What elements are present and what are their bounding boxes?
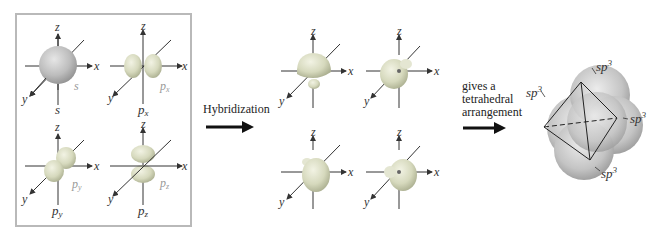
x-axis-label: x bbox=[181, 159, 188, 173]
sp3-orbital-3: z x y bbox=[278, 125, 354, 209]
y-axis-label: y bbox=[21, 92, 28, 106]
z-axis-label: z bbox=[396, 24, 402, 38]
py-orbital-diagram: z x y py py bbox=[21, 120, 100, 219]
y-axis-label: y bbox=[107, 192, 114, 206]
y-axis-label: y bbox=[278, 195, 285, 209]
hybridization-label: Hybridization bbox=[203, 102, 270, 116]
z-axis-label: z bbox=[140, 19, 146, 33]
z-axis-label: z bbox=[140, 117, 146, 131]
s-orbital-sphere bbox=[39, 46, 77, 84]
z-axis-label: z bbox=[396, 125, 402, 139]
px-orbital-diagram: z x y px px bbox=[107, 19, 188, 118]
px-orbital-label: px bbox=[137, 102, 149, 118]
py-lobe-front bbox=[44, 160, 64, 182]
y-axis-label: y bbox=[107, 91, 114, 105]
s-orbital-diagram: z x y s s bbox=[21, 20, 100, 117]
z-axis-label: z bbox=[310, 125, 316, 139]
x-axis-label: x bbox=[433, 165, 440, 179]
z-axis-label: z bbox=[54, 20, 60, 34]
x-axis-label: x bbox=[181, 59, 188, 73]
z-axis-label: z bbox=[310, 24, 316, 38]
s-orbital-label: s bbox=[55, 102, 60, 117]
py-inner-label: py bbox=[71, 177, 82, 192]
py-orbital-label: py bbox=[51, 203, 63, 219]
result-caption-line2: tetrahedral bbox=[462, 92, 514, 106]
x-axis-label: x bbox=[433, 64, 440, 78]
px-inner-label: px bbox=[159, 79, 170, 94]
sp3-orbital-2: z x y bbox=[363, 24, 440, 108]
px-lobe-left bbox=[124, 54, 142, 78]
x-axis-label: x bbox=[93, 59, 100, 73]
x-axis-label: x bbox=[347, 64, 354, 78]
sp3-orbital-1: z x y bbox=[278, 24, 354, 108]
result-caption-line1: gives a bbox=[462, 79, 496, 93]
sp3-label-bottom: sp3 bbox=[601, 165, 618, 181]
z-axis-label: z bbox=[54, 120, 60, 134]
px-lobe-right bbox=[144, 54, 162, 78]
figure-canvas: z x y s s z x y px px z x y py py bbox=[0, 0, 661, 239]
pz-orbital-label: pz bbox=[137, 203, 149, 219]
x-axis-label: x bbox=[347, 165, 354, 179]
s-inner-label: s bbox=[74, 79, 79, 93]
y-axis-label: y bbox=[363, 94, 370, 108]
x-axis-label: x bbox=[93, 159, 100, 173]
result-caption-line3: arrangement bbox=[462, 105, 523, 119]
sp3-label-left: sp3 bbox=[526, 84, 543, 100]
pz-inner-label: pz bbox=[159, 176, 170, 191]
sp3-orbital-4: z x y bbox=[363, 125, 440, 209]
pz-lobe-top bbox=[131, 145, 155, 163]
sp3-label-right: sp3 bbox=[630, 110, 647, 126]
tetrahedral-sp3-model: sp3 sp3 sp3 sp3 bbox=[526, 58, 647, 181]
y-axis-label: y bbox=[363, 195, 370, 209]
pz-orbital-diagram: z x y pz pz bbox=[107, 117, 188, 219]
y-axis-label: y bbox=[21, 192, 28, 206]
y-axis-label: y bbox=[278, 94, 285, 108]
